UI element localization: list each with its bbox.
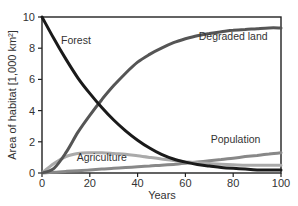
y-tick-label: 10 [23,11,35,23]
y-tick-label: 8 [29,42,35,54]
x-axis-ticks: 020406080100 [39,173,290,189]
y-tick-label: 0 [29,167,35,179]
label-forest: Forest [61,34,91,46]
label-degraded-land: Degraded land [199,30,268,42]
x-tick-label: 80 [227,177,239,189]
habitat-line-chart: 0246810 020406080100 ForestDegraded land… [0,0,298,206]
x-tick-label: 100 [272,177,290,189]
y-tick-label: 6 [29,73,35,85]
x-axis-title: Years [148,189,176,201]
y-axis-ticks: 0246810 [23,11,42,179]
y-tick-label: 2 [29,136,35,148]
y-tick-label: 4 [29,105,35,117]
y-axis-title: Area of habitat [1,000 km²] [6,30,18,160]
x-tick-label: 40 [131,177,143,189]
label-agriculture: Agriculture [77,151,127,163]
label-population: Population [211,133,261,145]
x-tick-label: 0 [39,177,45,189]
x-tick-label: 60 [179,177,191,189]
x-tick-label: 20 [84,177,96,189]
